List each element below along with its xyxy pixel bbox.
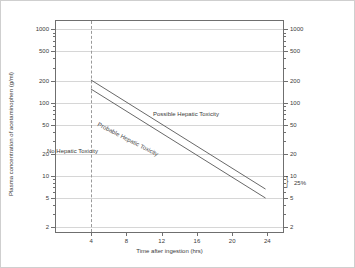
x-tick — [232, 232, 233, 236]
treatment-line — [91, 89, 266, 198]
y-minor-tick-right — [283, 58, 286, 59]
y-minor-tick-right — [283, 214, 286, 215]
x-tick — [197, 232, 198, 236]
y-minor-tick-right — [283, 33, 286, 34]
x-tick-label: 16 — [194, 238, 201, 244]
y-tick-label-right: 50 — [290, 122, 297, 128]
nomogram-figure: Plasma concentration of acetaminophen (g… — [0, 0, 355, 268]
y-tick-label-right: 500 — [290, 48, 300, 54]
y-minor-tick-right — [283, 198, 286, 199]
y-tick-label-left: 200 — [39, 78, 49, 84]
y-tick-label-left: 50 — [42, 122, 49, 128]
y-minor-tick-right — [283, 41, 286, 42]
y-tick-label-left: 2 — [46, 224, 49, 230]
x-tick-label: 4 — [90, 238, 93, 244]
y-minor-tick-right — [283, 68, 286, 69]
x-tick-label: 12 — [158, 238, 165, 244]
y-tick-label-right: 1000 — [290, 26, 303, 32]
x-tick — [91, 232, 92, 236]
y-tick-label-right: 5 — [290, 195, 293, 201]
y-minor-tick-right — [283, 227, 286, 228]
y-minor-tick-right — [283, 114, 286, 115]
x-tick-label: 8 — [125, 238, 128, 244]
y-tick-label-left: 10 — [42, 173, 49, 179]
y-axis-title: Plasma concentration of acetaminophen (g… — [8, 72, 14, 196]
label-25-percent: 25% — [294, 180, 306, 186]
y-tick-label-right: 100 — [290, 100, 300, 106]
y-minor-tick-right — [283, 106, 286, 107]
y-tick-label-right: 20 — [290, 151, 297, 157]
brace-icon: } — [286, 175, 288, 187]
x-tick-label: 20 — [229, 238, 236, 244]
y-tick-label-left: 100 — [39, 100, 49, 106]
y-tick-label-left: 5 — [46, 195, 49, 201]
x-tick-label: 24 — [264, 238, 271, 244]
x-tick — [267, 232, 268, 236]
y-minor-tick-right — [283, 154, 286, 155]
y-minor-tick-right — [283, 125, 286, 126]
y-minor-tick-right — [283, 205, 286, 206]
y-tick-label-left: 1000 — [36, 26, 49, 32]
y-minor-tick-right — [283, 141, 286, 142]
y-tick-right — [283, 103, 288, 104]
label-possible-hepatic-toxicity: Possible Hepatic Toxicity — [153, 111, 219, 117]
y-minor-tick-right — [283, 81, 286, 82]
y-minor-tick-right — [283, 46, 286, 47]
y-tick-label-right: 200 — [290, 78, 300, 84]
y-tick-right — [283, 29, 288, 30]
label-no-hepatic-toxicity: No Hepatic Toxicity — [47, 148, 98, 154]
y-minor-tick-right — [283, 36, 286, 37]
nomogram-lines — [56, 21, 283, 232]
plot-area: 1000100050050020020010010050502020101055… — [55, 20, 284, 233]
y-minor-tick-right — [283, 119, 286, 120]
y-tick-label-right: 10 — [290, 173, 297, 179]
y-tick-label-left: 500 — [39, 48, 49, 54]
y-tick-label-right: 2 — [290, 224, 293, 230]
x-tick — [126, 232, 127, 236]
x-axis-title: Time after ingestion (hrs) — [55, 248, 284, 254]
y-minor-tick-right — [283, 132, 286, 133]
y-minor-tick-right — [283, 51, 286, 52]
y-minor-tick-right — [283, 192, 286, 193]
y-minor-tick-right — [283, 110, 286, 111]
x-tick — [162, 232, 163, 236]
